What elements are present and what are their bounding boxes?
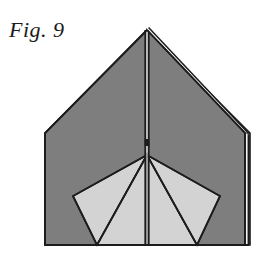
figure-illustration [0, 0, 275, 257]
center-fold-junction-mark [145, 139, 150, 146]
figure-container: Fig. 9 [0, 0, 275, 257]
